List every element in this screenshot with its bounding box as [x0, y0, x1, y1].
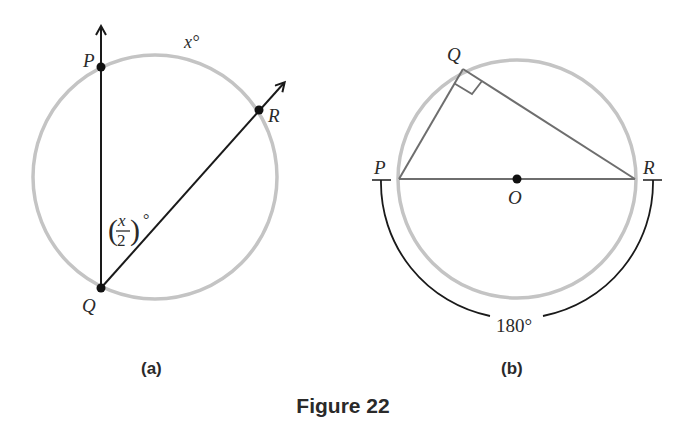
right-angle-marker [455, 81, 483, 94]
point-p-a [97, 63, 106, 72]
point-o-b [513, 175, 522, 184]
arc-label-b: 180° [496, 315, 532, 336]
label-o-b: O [508, 187, 522, 208]
label-r-b: R [642, 157, 655, 178]
figure-title: Figure 22 [296, 394, 389, 417]
point-r-a [255, 106, 264, 115]
label-p-b: P [373, 157, 386, 178]
figure-canvas: P Q R x° ( x 2 ) ° (a) Q P R O [0, 0, 687, 431]
close-paren: ) [130, 213, 140, 247]
arc-label-a: x° [183, 32, 199, 52]
label-q-a: Q [82, 295, 96, 316]
fraction-denominator: 2 [117, 231, 126, 250]
fraction-numerator: x [117, 211, 126, 230]
outer-arc-right [543, 180, 653, 316]
label-q-b: Q [447, 44, 461, 65]
panel-a: P Q R x° ( x 2 ) ° (a) [33, 27, 284, 378]
caption-b: (b) [501, 359, 523, 378]
segment-pq [399, 69, 463, 179]
angle-label-a: ( x 2 ) ° [108, 211, 149, 250]
label-p-a: P [82, 50, 95, 71]
caption-a: (a) [141, 359, 162, 378]
outer-arc-left [381, 180, 490, 316]
circle-a [33, 55, 277, 299]
panel-b: Q P R O 180° (b) [372, 44, 662, 378]
degree-symbol: ° [143, 211, 149, 228]
label-r-a: R [267, 105, 280, 126]
point-q-a [97, 284, 106, 293]
segment-qr [463, 69, 635, 179]
